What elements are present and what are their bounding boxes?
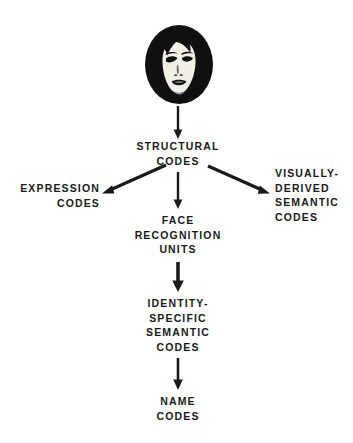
arrow-structural-codes-to-visually-derived-codes bbox=[208, 166, 270, 194]
node-expression-codes: EXPRESSION CODES bbox=[0, 181, 100, 210]
node-face-recognition-units: FACE RECOGNITION UNITS bbox=[135, 213, 222, 257]
node-identity-specific-semantic-codes: IDENTITY- SPECIFIC SEMANTIC CODES bbox=[146, 296, 210, 354]
arrow-identity-specific-codes-to-name-codes bbox=[173, 358, 183, 390]
node-structural-codes: STRUCTURAL CODES bbox=[136, 139, 219, 168]
arrow-face-recognition-units-to-identity-specific-codes bbox=[172, 262, 184, 292]
node-visually-derived-semantic-codes: VISUALLY- DERIVED SEMANTIC CODES bbox=[275, 166, 353, 224]
face-photograph-icon bbox=[145, 25, 213, 104]
arrow-face-to-structural-codes bbox=[174, 106, 183, 139]
arrow-structural-codes-to-expression-codes bbox=[102, 165, 166, 194]
face-recognition-model-diagram: STRUCTURAL CODES EXPRESSION CODES VISUAL… bbox=[0, 0, 353, 443]
arrow-structural-codes-to-face-recognition-units bbox=[174, 172, 183, 209]
node-name-codes: NAME CODES bbox=[156, 394, 199, 423]
